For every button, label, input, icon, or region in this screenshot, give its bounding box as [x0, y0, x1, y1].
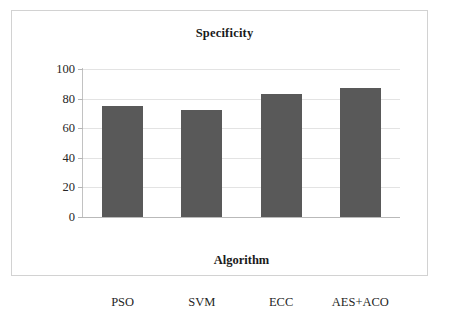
bar [181, 110, 222, 216]
bar [102, 106, 143, 217]
y-axis-tick-label: 0 [69, 209, 75, 224]
y-axis-tick-label: 100 [56, 62, 75, 77]
gridline [83, 69, 400, 70]
bar [340, 88, 381, 216]
y-axis-tick-label: 20 [63, 180, 76, 195]
x-axis-title: Algorithm [83, 253, 400, 268]
y-axis-tick [78, 158, 83, 159]
y-axis-tick [78, 217, 83, 218]
y-axis-tick-label: 40 [63, 150, 76, 165]
plot-area: 020406080100PSOSVMECCAES+ACO [83, 69, 400, 217]
x-axis-tick-label: ECC [269, 295, 293, 310]
x-axis-tick-label: AES+ACO [332, 295, 389, 310]
y-axis-tick [78, 99, 83, 100]
y-axis-tick [78, 187, 83, 188]
y-axis-tick [78, 128, 83, 129]
axis-baseline [83, 217, 400, 218]
y-axis-tick-label: 60 [63, 121, 76, 136]
y-axis-tick [78, 69, 83, 70]
y-axis-title: Percentage [22, 104, 36, 194]
x-axis-tick-label: SVM [188, 295, 215, 310]
y-axis-tick-label: 80 [63, 91, 76, 106]
x-axis-tick-label: PSO [111, 295, 134, 310]
chart-title: Specificity [0, 26, 449, 41]
bar [261, 94, 302, 216]
